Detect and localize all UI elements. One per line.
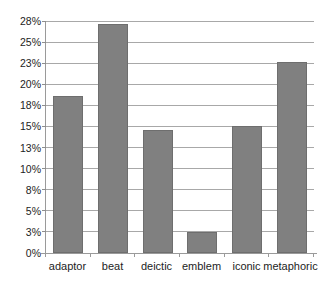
x-axis-tick — [134, 253, 135, 257]
bar-chart: 0%3%5%8%10%13%15%18%20%23%25%28% adaptor… — [0, 0, 323, 292]
y-axis-tick — [42, 126, 46, 127]
bar-emblem — [187, 232, 217, 253]
y-axis-tick — [42, 147, 46, 148]
gridline — [46, 63, 314, 64]
x-axis-tick — [224, 253, 225, 257]
y-axis-tick-label: 3% — [5, 227, 41, 238]
y-axis-tick-label: 13% — [5, 143, 41, 154]
y-axis-tick-label: 28% — [5, 16, 41, 27]
y-axis-tick-label: 25% — [5, 37, 41, 48]
x-axis-tick — [268, 253, 269, 257]
y-axis-tick — [42, 105, 46, 106]
gridline — [46, 231, 314, 232]
gridline — [46, 210, 314, 211]
x-axis-labels: adaptorbeatdeicticemblemiconicmetaphoric — [45, 259, 313, 277]
y-axis-tick — [42, 168, 46, 169]
y-axis-tick-label: 5% — [5, 206, 41, 217]
y-axis-tick — [42, 21, 46, 22]
gridline — [46, 105, 314, 106]
gridline — [46, 168, 314, 169]
bar-metaphoric — [277, 62, 307, 253]
gridline — [46, 126, 314, 127]
x-axis-label-metaphoric: metaphoric — [262, 259, 319, 273]
y-axis-tick — [42, 42, 46, 43]
y-axis-tick — [42, 189, 46, 190]
bar-deictic — [143, 130, 173, 253]
y-axis-tick — [42, 231, 46, 232]
y-axis-tick-label: 18% — [5, 100, 41, 111]
x-axis-tick — [45, 253, 46, 257]
gridline — [46, 147, 314, 148]
x-axis-tick — [313, 253, 314, 257]
gridline — [46, 84, 314, 85]
y-axis-tick-label: 0% — [5, 248, 41, 259]
y-axis-tick-label: 20% — [5, 79, 41, 90]
y-axis-tick-label: 23% — [5, 58, 41, 69]
bar-adaptor — [53, 96, 83, 253]
y-axis-tick — [42, 63, 46, 64]
gridline — [46, 189, 314, 190]
y-axis-tick-label: 10% — [5, 164, 41, 175]
y-axis-tick-label: 8% — [5, 185, 41, 196]
bar-iconic — [232, 126, 262, 253]
y-axis-tick-label: 15% — [5, 121, 41, 132]
x-axis-tick — [90, 253, 91, 257]
gridline — [46, 21, 314, 22]
gridline — [46, 42, 314, 43]
y-axis-tick — [42, 210, 46, 211]
y-axis-tick — [42, 84, 46, 85]
x-axis-tick — [179, 253, 180, 257]
plot-area — [45, 21, 313, 253]
bar-beat — [98, 24, 128, 253]
